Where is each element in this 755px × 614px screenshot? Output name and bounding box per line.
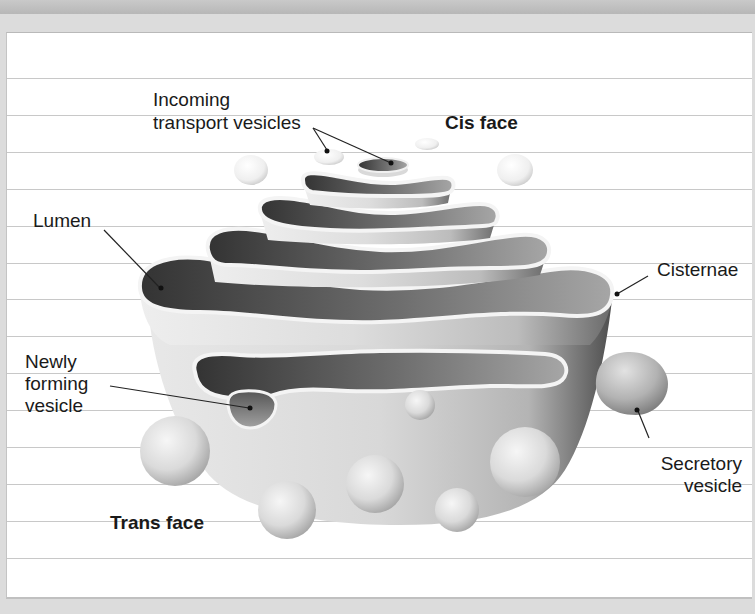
label-secretory-line1: Secretory [640, 453, 742, 474]
cisterna-1 [303, 173, 454, 208]
secretory-vesicle [596, 352, 668, 415]
label-lumen: Lumen [33, 210, 91, 231]
label-cisternae: Cisternae [657, 259, 738, 280]
vesicle [234, 155, 268, 185]
vesicle [405, 390, 435, 420]
label-newly-line1: Newly [25, 351, 77, 372]
label-secretory-line2: vesicle [640, 475, 742, 496]
vesicle [497, 154, 533, 186]
label-newly-line2: forming [25, 373, 88, 394]
label-cis-face: Cis face [445, 112, 518, 133]
label-newly-line3: vesicle [25, 395, 83, 416]
vesicle [258, 481, 316, 539]
label-incoming-line2: transport vesicles [153, 112, 301, 133]
vesicle [435, 488, 479, 532]
vesicle [490, 427, 560, 497]
vesicle [140, 416, 210, 486]
vesicle [346, 455, 404, 513]
label-incoming-line1: Incoming [153, 89, 230, 110]
label-trans-face: Trans face [110, 512, 204, 533]
vesicle [415, 138, 439, 150]
top-transport-vesicle [358, 158, 408, 177]
